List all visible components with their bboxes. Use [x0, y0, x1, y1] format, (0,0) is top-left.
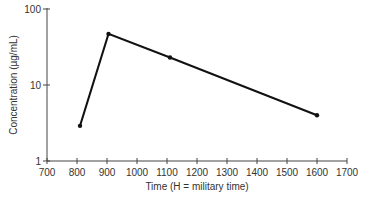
concentration-time-chart: 1101007008009001000110012001300140015001… — [0, 0, 369, 202]
x-tick-label: 1600 — [306, 167, 329, 178]
data-point-marker — [78, 124, 82, 128]
y-axis-label: Concentration (µg/mL) — [8, 35, 19, 135]
x-tick-label: 1100 — [156, 167, 178, 178]
x-tick-label: 1300 — [216, 167, 239, 178]
y-tick-label: 1 — [35, 156, 41, 167]
x-tick-label: 1700 — [336, 167, 359, 178]
x-tick-label: 800 — [69, 167, 86, 178]
x-tick-label: 700 — [39, 167, 56, 178]
x-tick-label: 1200 — [186, 167, 209, 178]
data-point-marker — [106, 32, 110, 36]
series-line — [80, 34, 317, 126]
data-series — [78, 32, 319, 128]
x-axis-label: Time (H = military time) — [145, 181, 248, 192]
x-tick-label: 1000 — [126, 167, 149, 178]
y-tick-label: 100 — [24, 4, 41, 15]
x-tick-label: 1400 — [246, 167, 269, 178]
data-point-marker — [168, 55, 172, 59]
axes: 1101007008009001000110012001300140015001… — [24, 4, 358, 179]
x-tick-label: 900 — [99, 167, 116, 178]
x-tick-label: 1500 — [276, 167, 299, 178]
y-tick-label: 10 — [30, 80, 42, 91]
data-point-marker — [315, 113, 319, 117]
